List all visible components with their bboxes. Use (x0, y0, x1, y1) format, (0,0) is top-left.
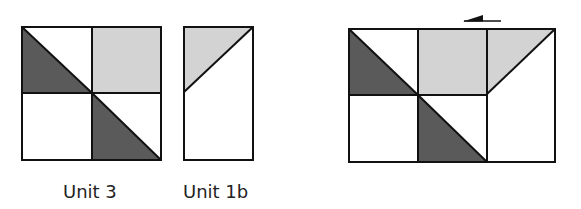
diagram-canvas (0, 0, 581, 209)
unit-1b-block (184, 27, 253, 160)
combined-c2-top-light-square (418, 29, 487, 95)
left-arrow-icon (463, 15, 501, 22)
unit3-tr-light-square (92, 27, 161, 93)
unit-3-label: Unit 3 (63, 183, 117, 201)
combined-block (349, 29, 555, 162)
unit3-bl-white-square (22, 93, 92, 160)
combined-c1-bottom-white (349, 95, 418, 162)
unit-1b-label: Unit 1b (183, 183, 248, 201)
unit-3-block (22, 27, 161, 160)
